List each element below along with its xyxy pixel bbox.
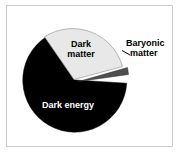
label-baryonic-matter-line1: Baryonic (126, 38, 165, 48)
label-baryonic-matter-line2: matter (130, 48, 158, 58)
baryonic-leader-line (122, 51, 130, 56)
chart-figure: Dark matter Baryonic matter Dark energy (0, 0, 186, 159)
pie-chart: Dark matter Baryonic matter Dark energy (0, 0, 186, 159)
label-dark-energy: Dark energy (42, 100, 94, 110)
label-dark-matter-line1: Dark (71, 39, 92, 49)
label-dark-matter-line2: matter (67, 49, 95, 59)
